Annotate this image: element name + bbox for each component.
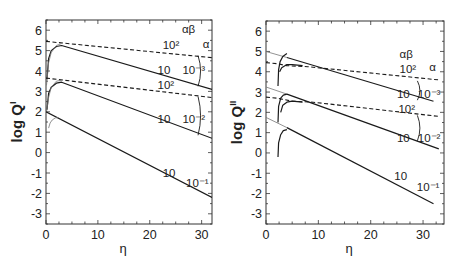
y-tick-label: 4 (255, 65, 262, 79)
series-line-9 (281, 101, 303, 112)
annotation-label: 10² (163, 39, 180, 51)
y-tick-label: -3 (251, 207, 262, 221)
x-tick-label: 20 (143, 228, 157, 242)
y-tick-label: -3 (31, 207, 42, 221)
annotation-label: 10² (158, 79, 175, 91)
y-axis-label: log QI (8, 102, 25, 143)
annotation-label: 10⁻² (182, 113, 205, 125)
x-tick-label: 30 (416, 228, 430, 242)
x-axis-label: η (345, 241, 352, 256)
figure: 0102030-3-2-10123456ηlog QIαβ10²α1010⁻³1… (0, 0, 455, 257)
y-tick-label: 1 (255, 126, 262, 140)
y-tick-label: 0 (255, 146, 262, 160)
y-axis-label-main: log Q (228, 106, 245, 145)
chart-panel-left: 0102030-3-2-10123456ηlog QIαβ10²α1010⁻³1… (8, 20, 212, 256)
x-tick-label: 10 (91, 228, 105, 242)
x-axis-label: η (119, 241, 126, 256)
annotation-label: αβ (400, 48, 414, 60)
annotation-label: 10² (400, 63, 417, 75)
y-tick-label: 3 (255, 86, 262, 100)
y-tick-label: 3 (35, 85, 42, 99)
y-tick-label: 2 (255, 106, 262, 120)
y-tick-label: 5 (255, 45, 262, 59)
y-axis-label-superscript: II (228, 101, 238, 106)
y-tick-label: -2 (31, 187, 42, 201)
x-tick-label: 0 (43, 228, 50, 242)
annotation-label: 10⁻¹ (417, 181, 440, 193)
series-line-7 (49, 118, 59, 129)
y-tick-label: -1 (251, 167, 262, 181)
y-axis-label-group: log QI (8, 102, 25, 143)
annotation-label: αβ (182, 23, 196, 35)
y-tick-label: -2 (251, 187, 262, 201)
annotation-label: α (203, 38, 210, 50)
series-line-4 (47, 82, 212, 138)
plot-frame (266, 21, 444, 224)
annotation-label: 10⁻³ (418, 88, 441, 100)
annotation-label: α (429, 61, 436, 73)
series-line-5 (266, 87, 287, 94)
annotation-label: 10 (397, 88, 410, 100)
series-line-12 (278, 130, 287, 157)
y-axis-label: log QII (228, 101, 245, 144)
series-line-10 (266, 117, 287, 127)
annotation-label: 10 (394, 170, 407, 182)
x-tick-label: 10 (311, 228, 325, 242)
series-line-3 (278, 54, 287, 87)
y-tick-label: 2 (35, 105, 42, 119)
annotation-label: 10 (163, 167, 176, 179)
series-line-6 (287, 94, 439, 149)
y-tick-label: 6 (255, 25, 262, 39)
y-axis-label-main: log Q (8, 104, 25, 143)
annotation-label: 10² (398, 103, 415, 115)
annotation-label: 10 (158, 113, 171, 125)
annotation-label: 10⁻³ (182, 64, 205, 76)
y-axis-label-group: log QII (228, 101, 245, 144)
y-axis-label-superscript: I (8, 102, 18, 105)
y-tick-label: -1 (31, 167, 42, 181)
y-tick-label: 0 (35, 146, 42, 160)
annotation-label: 10 (397, 132, 410, 144)
series-line-0 (46, 41, 212, 57)
y-tick-label: 5 (35, 44, 42, 58)
y-tick-label: 1 (35, 126, 42, 140)
annotation-label: 10 (158, 64, 171, 76)
x-tick-label: 0 (263, 228, 270, 242)
annotation-label: 10⁻¹ (186, 177, 209, 189)
series-line-0 (266, 52, 287, 58)
x-tick-label: 20 (364, 228, 378, 242)
x-tick-label: 30 (195, 228, 209, 242)
series-line-3 (46, 78, 212, 97)
annotation-label: 10⁻² (418, 132, 441, 144)
chart-panel-right: 0102030-3-2-10123456ηlog QIIαβ10²α1010⁻³… (228, 21, 444, 256)
y-tick-label: 4 (35, 65, 42, 79)
series-line-4 (280, 65, 303, 72)
y-tick-label: 6 (35, 24, 42, 38)
